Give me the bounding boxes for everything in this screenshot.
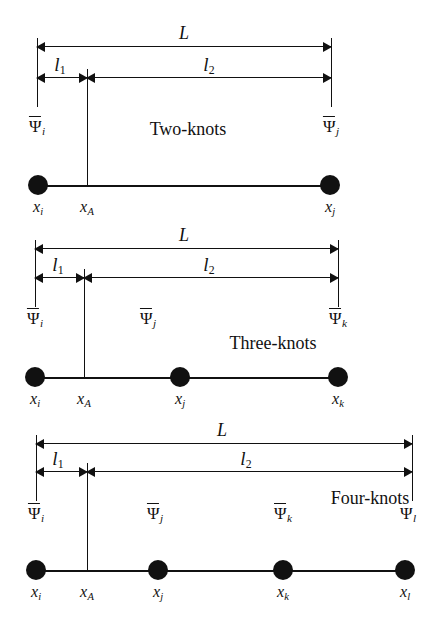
figure-canvas: Ll1l2ΨiΨjTwo-knotsxixjxALl1l2ΨiΨjΨkThree… [0, 0, 440, 640]
extension-tick-left [36, 435, 37, 501]
node-label-A: xA [80, 584, 94, 600]
psi-label-i: Ψi [28, 505, 44, 522]
node-subscript: k [284, 591, 289, 602]
dimension-arrow-l1 [36, 471, 87, 473]
node-subscript: l [407, 591, 410, 602]
psi-subscript: k [287, 512, 292, 524]
dimension-line [87, 471, 412, 472]
node-subscript: A [87, 591, 93, 602]
dimension-symbol: l [240, 448, 245, 469]
psi-symbol-overbar: Ψ [28, 505, 41, 522]
beam-line [36, 570, 405, 572]
dimension-symbol: l [52, 448, 57, 469]
knot-node-l [395, 560, 415, 580]
dimension-subscript: 1 [58, 458, 64, 471]
dimension-arrow-l2 [87, 471, 412, 473]
psi-symbol-overbar: Ψ [147, 505, 160, 522]
node-subscript: j [160, 591, 163, 602]
dimension-subscript: 2 [246, 458, 252, 471]
node-label-l: xl [400, 584, 410, 600]
knot-node-j [148, 560, 168, 580]
dimension-label-L: L [217, 421, 227, 439]
node-label-j: xj [153, 584, 163, 600]
node-subscript: i [38, 591, 41, 602]
node-label-k: xk [277, 584, 289, 600]
panel-caption-four-knots: Four-knots [331, 489, 410, 507]
dimension-label-l2: l2 [240, 449, 251, 468]
knot-node-i [26, 560, 46, 580]
dimension-label-l1: l1 [52, 449, 63, 468]
dimension-line [36, 443, 412, 444]
xa-reference-tick [87, 463, 88, 570]
psi-subscript: j [160, 512, 163, 524]
extension-tick-right [412, 435, 413, 501]
psi-subscript: i [41, 512, 44, 524]
psi-subscript: l [413, 512, 416, 524]
panel-four-knots: Ll1l2ΨiΨjΨkΨlFour-knotsxixjxkxlxA [0, 0, 440, 640]
knot-node-k [273, 560, 293, 580]
psi-label-j: Ψj [147, 505, 163, 522]
node-label-i: xi [31, 584, 41, 600]
dimension-symbol: L [217, 420, 227, 440]
psi-label-k: Ψk [274, 505, 292, 522]
dimension-arrow-L [36, 443, 412, 445]
psi-symbol-overbar: Ψ [274, 505, 287, 522]
